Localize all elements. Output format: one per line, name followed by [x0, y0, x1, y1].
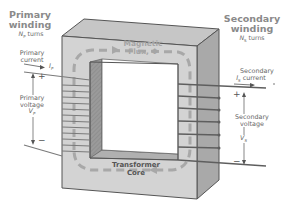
secondary-voltage-label: Secondary voltage: [227, 114, 277, 127]
secondary-turns-label: NS turns: [226, 35, 278, 43]
primary-current-label: Primary current: [14, 50, 50, 63]
core-side-face: [197, 29, 219, 199]
secondary-minus-sign: −: [233, 157, 241, 166]
primary-minus-sign: −: [38, 136, 46, 145]
transformer-diagram: Primary winding NP turns Primary current…: [0, 0, 283, 218]
secondary-voltage-symbol: VS: [240, 135, 247, 143]
magnetic-flux-label: Magnetic Flux, Φ: [118, 40, 168, 56]
secondary-current-arrow: [234, 84, 252, 85]
secondary-plus-sign: +: [233, 90, 241, 99]
secondary-winding-title: Secondary winding: [222, 14, 282, 34]
core-window: [102, 59, 178, 154]
primary-winding-title: Primary winding: [4, 10, 56, 30]
primary-voltage-label: Primary voltage VP: [12, 95, 52, 117]
transformer-core-label: Transformer Core: [104, 161, 168, 177]
primary-current-arrow: [24, 64, 42, 67]
primary-current-symbol: IP: [49, 63, 53, 71]
secondary-current-label-line2: IS current: [226, 75, 276, 83]
primary-plus-sign: +: [38, 72, 46, 81]
core-window-inner-wall: [90, 59, 102, 158]
primary-turns-label: NP turns: [6, 31, 56, 39]
